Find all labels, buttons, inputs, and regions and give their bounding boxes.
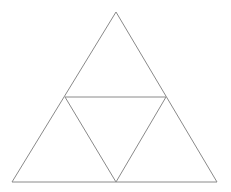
inner-triangle xyxy=(65,97,166,182)
triangle-diagram xyxy=(0,0,231,192)
